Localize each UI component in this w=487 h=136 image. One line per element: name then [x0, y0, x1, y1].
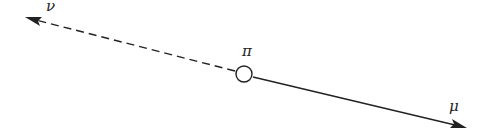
muon-track [253, 77, 467, 128]
muon-arrowhead-icon [450, 119, 467, 128]
diagram-svg [0, 0, 487, 136]
pion-decay-diagram: ν π μ [0, 0, 487, 136]
neutrino-label: ν [46, 0, 55, 14]
neutrino-track [25, 17, 235, 71]
pion-vertex-icon [236, 66, 252, 82]
muon-label: μ [449, 99, 459, 114]
pion-label: π [242, 44, 252, 59]
